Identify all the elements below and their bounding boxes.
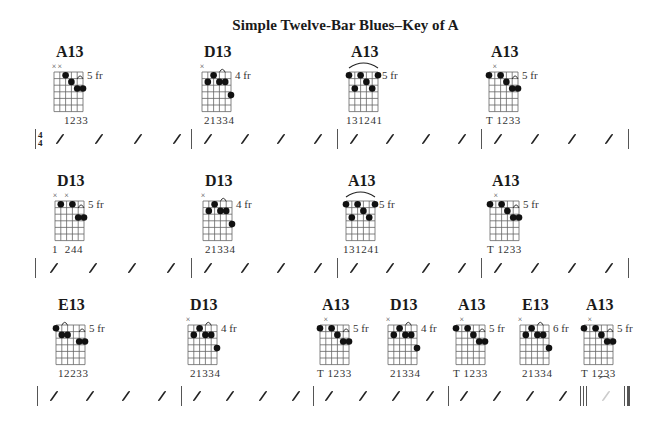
rhythm-slash	[421, 134, 430, 144]
barline	[628, 258, 629, 278]
muted-string-icon: ×	[64, 191, 69, 200]
rhythm-slash	[49, 263, 58, 273]
fret-position-label: 5 fr	[382, 69, 398, 81]
rhythm-slash	[240, 263, 249, 273]
chord-name: D13	[190, 296, 218, 314]
rhythm-slash	[558, 391, 567, 401]
muted-string-icon: ×	[52, 62, 57, 71]
rhythm-slash	[225, 391, 234, 401]
fretboard-grid: ×	[486, 197, 523, 245]
fret-position-label: 4 fr	[421, 322, 437, 334]
rhythm-slash	[277, 263, 286, 273]
barline	[448, 386, 449, 406]
time-signature: 44	[38, 131, 43, 147]
fingering-label: 12233	[58, 367, 89, 379]
rhythm-slash	[531, 134, 540, 144]
barline	[37, 386, 38, 406]
muted-string-icon: ×	[201, 191, 206, 200]
fingering-label: 131241	[346, 114, 383, 126]
chord-name: A13	[586, 296, 614, 314]
rhythm-slash	[385, 134, 394, 144]
rhythm-slash	[55, 134, 64, 144]
rhythm-slash	[426, 391, 435, 401]
fingering-label: 1 244	[52, 243, 83, 255]
fret-position-label: 5 fr	[88, 198, 104, 210]
rhythm-slash	[172, 134, 181, 144]
muted-string-icon: ×	[588, 315, 593, 324]
fermata-icon: ⌒	[599, 373, 610, 389]
fingering-label: T 1233	[453, 367, 488, 379]
barline	[313, 386, 314, 406]
chord-name: D13	[57, 172, 85, 190]
chord-name: A13	[458, 296, 486, 314]
barline	[191, 258, 192, 278]
fret-position-label: 6 fr	[553, 322, 569, 334]
rhythm-slash	[604, 134, 613, 144]
fretboard-grid: ×	[199, 197, 236, 245]
muted-string-icon: ×	[200, 62, 205, 71]
fret-position-label: 5 fr	[523, 198, 539, 210]
fret-position-label: 4 fr	[236, 198, 252, 210]
fretboard-grid: ××	[51, 197, 88, 245]
fret-position-label: 5 fr	[489, 322, 505, 334]
barline	[181, 386, 182, 406]
barline	[580, 386, 581, 406]
muted-string-icon: ×	[386, 315, 391, 324]
barline	[627, 386, 630, 406]
muted-string-icon: ×	[186, 315, 191, 324]
barline	[481, 129, 482, 149]
fingering-label: 21334	[190, 367, 221, 379]
fingering-label: T 1233	[487, 243, 522, 255]
rhythm-slash	[88, 263, 97, 273]
fretboard-grid: ×	[580, 321, 617, 369]
fretboard-grid	[52, 321, 89, 369]
rhythm-slash	[94, 134, 103, 144]
chord-name: A13	[491, 43, 519, 61]
barline	[586, 386, 587, 406]
rhythm-slash	[494, 263, 503, 273]
rhythm-slash	[358, 391, 367, 401]
rhythm-slash	[459, 391, 468, 401]
fretboard-grid: ×	[198, 68, 235, 116]
muted-string-icon: ×	[518, 315, 523, 324]
rhythm-slash	[277, 134, 286, 144]
rhythm-slash	[127, 263, 136, 273]
rhythm-slash	[457, 263, 466, 273]
rhythm-slash	[240, 134, 249, 144]
rhythm-slash	[157, 391, 166, 401]
fingering-label: T 1233	[486, 114, 521, 126]
rhythm-slash	[525, 391, 534, 401]
barline	[337, 129, 338, 149]
muted-string-icon: ×	[493, 62, 498, 71]
rhythm-slash	[604, 263, 613, 273]
muted-string-icon: ×	[324, 315, 329, 324]
fret-position-label: 5 fr	[353, 322, 369, 334]
barline	[35, 258, 36, 278]
fretboard-grid	[342, 197, 379, 245]
barline	[583, 386, 584, 406]
barline	[35, 129, 36, 149]
fret-position-label: 4 fr	[221, 322, 237, 334]
fretboard-grid: ××	[50, 68, 87, 116]
fret-position-label: 5 fr	[522, 69, 538, 81]
rhythm-slash	[492, 391, 501, 401]
rhythm-slash	[49, 391, 58, 401]
fingering-label: 21334	[522, 367, 553, 379]
chord-name: D13	[205, 172, 233, 190]
barline	[191, 129, 192, 149]
fretboard-grid: ×	[184, 321, 221, 369]
rhythm-slash	[601, 391, 610, 401]
rhythm-slash	[133, 134, 142, 144]
rhythm-slash	[531, 263, 540, 273]
rhythm-slash	[349, 134, 358, 144]
fingering-label: 21334	[205, 243, 236, 255]
fingering-label: 21334	[204, 114, 235, 126]
fingering-label: T 1233	[317, 367, 352, 379]
fret-position-label: 5 fr	[87, 69, 103, 81]
rhythm-slash	[85, 391, 94, 401]
rhythm-slash	[192, 391, 201, 401]
barline	[481, 258, 482, 278]
rhythm-slash	[392, 391, 401, 401]
rhythm-slash	[567, 134, 576, 144]
barline	[337, 258, 338, 278]
